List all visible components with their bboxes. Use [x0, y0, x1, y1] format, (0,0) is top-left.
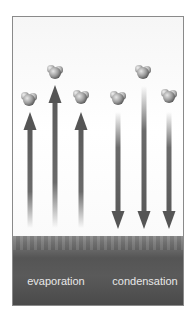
- arrow-down-icon: [163, 112, 176, 229]
- water-molecule-icon: [161, 89, 177, 103]
- water-molecule-icon: [47, 65, 63, 79]
- water-molecule-icon: [21, 92, 37, 106]
- diagram-art: [0, 0, 192, 319]
- water-molecule-icon: [73, 90, 89, 104]
- arrow-up-icon: [49, 85, 62, 228]
- arrow-down-icon: [138, 86, 151, 229]
- water-molecule-icon: [110, 91, 126, 105]
- arrow-up-icon: [75, 112, 88, 228]
- arrow-down-icon: [112, 112, 125, 229]
- arrow-up-icon: [24, 112, 37, 228]
- water-molecule-icon: [135, 65, 151, 79]
